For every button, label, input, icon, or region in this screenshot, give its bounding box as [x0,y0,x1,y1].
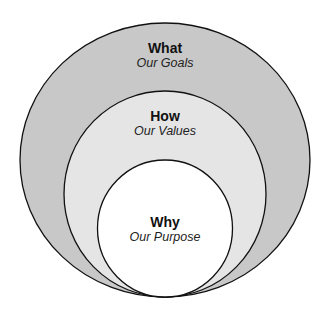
why-label: Why Our Purpose [65,214,265,245]
what-subtitle: Our Goals [65,56,265,71]
how-subtitle: Our Values [65,124,265,139]
what-title: What [65,40,265,56]
how-title: How [65,108,265,124]
why-title: Why [65,214,265,230]
how-label: How Our Values [65,108,265,139]
what-label: What Our Goals [65,40,265,71]
why-subtitle: Our Purpose [65,230,265,245]
